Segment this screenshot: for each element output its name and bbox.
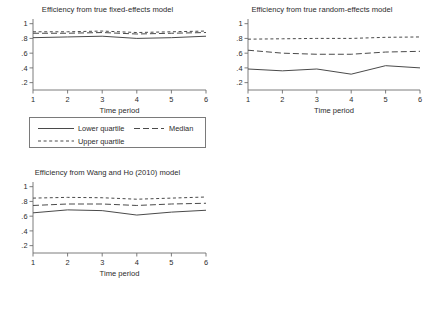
svg-text:4: 4	[135, 258, 139, 267]
chart-plot-area: .2.4.6.81123456Time period	[215, 14, 429, 117]
svg-text:5: 5	[169, 95, 173, 104]
svg-text:Time period: Time period	[100, 106, 140, 115]
svg-text:2: 2	[280, 95, 284, 104]
chart-plot-area: .2.4.6.81123456Time period	[0, 14, 215, 117]
chart-title: Efficiency from true fixed-effects model	[0, 5, 215, 14]
svg-text:.8: .8	[21, 197, 27, 206]
chart-title: Efficiency from Wang and Ho (2010) model	[0, 168, 215, 177]
svg-text:1: 1	[23, 19, 27, 28]
svg-text:.6: .6	[21, 49, 27, 58]
svg-text:.6: .6	[21, 212, 27, 221]
svg-text:2: 2	[66, 95, 70, 104]
svg-text:.6: .6	[236, 49, 242, 58]
svg-text:Time period: Time period	[100, 269, 140, 278]
svg-text:4: 4	[349, 95, 353, 104]
svg-text:Lower quartile: Lower quartile	[78, 124, 124, 133]
svg-text:5: 5	[384, 95, 388, 104]
svg-text:6: 6	[204, 258, 208, 267]
svg-text:Median: Median	[169, 124, 193, 133]
svg-text:.2: .2	[21, 78, 27, 87]
svg-text:1: 1	[23, 182, 27, 191]
svg-text:.4: .4	[21, 64, 27, 73]
svg-text:3: 3	[100, 95, 104, 104]
chart-legend: Lower quartileMedianUpper quartile	[29, 117, 206, 148]
legend-content: Lower quartileMedianUpper quartile	[30, 118, 207, 149]
svg-text:.2: .2	[21, 241, 27, 250]
svg-text:1: 1	[238, 19, 242, 28]
svg-text:4: 4	[135, 95, 139, 104]
svg-text:1: 1	[31, 95, 35, 104]
svg-text:Time period: Time period	[314, 106, 354, 115]
figure-panel-grid: Efficiency from true fixed-effects model…	[0, 0, 429, 326]
chart-panel-random-effects: Efficiency from true random-effects mode…	[215, 0, 429, 163]
svg-text:1: 1	[31, 258, 35, 267]
svg-text:.8: .8	[21, 34, 27, 43]
svg-text:Upper quartile: Upper quartile	[78, 137, 124, 146]
svg-text:3: 3	[100, 258, 104, 267]
chart-title: Efficiency from true random-effects mode…	[215, 5, 429, 14]
svg-text:2: 2	[66, 258, 70, 267]
svg-text:3: 3	[315, 95, 319, 104]
chart-panel-wang-ho: Efficiency from Wang and Ho (2010) model…	[0, 163, 215, 326]
svg-text:.4: .4	[21, 227, 27, 236]
svg-text:5: 5	[169, 258, 173, 267]
chart-plot-area: .2.4.6.81123456Time period	[0, 177, 215, 280]
svg-text:1: 1	[246, 95, 250, 104]
svg-text:.2: .2	[236, 78, 242, 87]
svg-text:.4: .4	[236, 64, 242, 73]
chart-panel-fixed-effects: Efficiency from true fixed-effects model…	[0, 0, 215, 163]
svg-text:6: 6	[204, 95, 208, 104]
svg-text:6: 6	[418, 95, 422, 104]
svg-text:.8: .8	[236, 34, 242, 43]
